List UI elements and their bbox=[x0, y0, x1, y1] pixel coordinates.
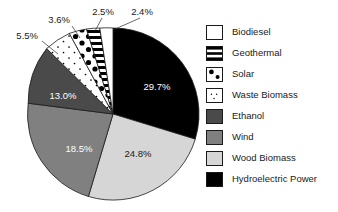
legend-item-wind[interactable]: Wind bbox=[206, 127, 336, 147]
legend-label-hydroelectric-power: Hydroelectric Power bbox=[232, 174, 317, 184]
legend-label-biodiesel: Biodiesel bbox=[232, 27, 271, 37]
legend-item-waste-biomass[interactable]: Waste Biomass bbox=[206, 85, 336, 105]
pie-value-label-geothermal: 2.5% bbox=[92, 6, 114, 17]
legend-swatch-icon-hydroelectric-power bbox=[206, 172, 223, 187]
pie-chart-figure: 29.7% 24.8% 18.5% 13.0% 5.5% 3.6% 2.5% 2… bbox=[0, 0, 338, 212]
legend-label-geothermal: Geothermal bbox=[232, 48, 282, 58]
chart-legend: Biodiesel Geothermal Sola bbox=[206, 22, 336, 190]
legend-swatch-icon-wind bbox=[206, 130, 223, 145]
legend-item-geothermal[interactable]: Geothermal bbox=[206, 43, 336, 63]
legend-item-biodiesel[interactable]: Biodiesel bbox=[206, 22, 336, 42]
legend-swatch-icon-solar bbox=[206, 67, 223, 82]
legend-item-hydroelectric-power[interactable]: Hydroelectric Power bbox=[206, 169, 336, 189]
pie-value-label-wood-biomass: 24.8% bbox=[125, 148, 152, 159]
leader-line-biodiesel bbox=[113, 18, 140, 30]
pie-value-label-hydroelectric-power: 29.7% bbox=[144, 81, 171, 92]
legend-swatch-icon-biodiesel bbox=[206, 25, 223, 40]
legend-label-wood-biomass: Wood Biomass bbox=[232, 153, 296, 163]
pie-value-label-ethanol: 13.0% bbox=[50, 90, 77, 101]
legend-swatch-icon-wood-biomass bbox=[206, 151, 223, 166]
pie-value-label-waste-biomass: 5.5% bbox=[16, 30, 38, 41]
legend-swatch-icon-ethanol bbox=[206, 109, 223, 124]
legend-item-wood-biomass[interactable]: Wood Biomass bbox=[206, 148, 336, 168]
pie-value-label-biodiesel: 2.4% bbox=[131, 6, 153, 17]
legend-label-wind: Wind bbox=[232, 132, 254, 142]
pie-value-label-solar: 3.6% bbox=[48, 14, 70, 25]
legend-label-waste-biomass: Waste Biomass bbox=[232, 90, 298, 100]
legend-item-solar[interactable]: Solar bbox=[206, 64, 336, 84]
legend-swatch-icon-waste-biomass bbox=[206, 88, 223, 103]
legend-item-ethanol[interactable]: Ethanol bbox=[206, 106, 336, 126]
legend-label-solar: Solar bbox=[232, 69, 254, 79]
legend-label-ethanol: Ethanol bbox=[232, 111, 264, 121]
pie-value-label-wind: 18.5% bbox=[66, 143, 93, 154]
legend-swatch-icon-geothermal bbox=[206, 46, 223, 61]
